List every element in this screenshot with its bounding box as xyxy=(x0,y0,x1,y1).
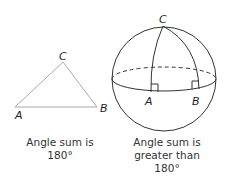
sphere-vertex-a-label: A xyxy=(145,96,153,107)
sphere-caption: Angle sum is greater than 180° xyxy=(114,136,220,175)
flat-vertex-a-label: A xyxy=(15,110,23,121)
sphere-outline xyxy=(112,27,216,131)
meridian-c-b xyxy=(163,26,199,89)
flat-vertex-b-label: B xyxy=(100,103,108,114)
flat-caption-line2: 180° xyxy=(10,149,110,162)
sphere-vertex-c-label: C xyxy=(159,14,167,25)
sphere-caption-line3: 180° xyxy=(114,162,220,175)
flat-triangle xyxy=(15,62,97,107)
flat-caption-line1: Angle sum is xyxy=(10,136,110,149)
flat-caption: Angle sum is 180° xyxy=(10,136,110,162)
sphere-caption-line2: greater than xyxy=(114,149,220,162)
sphere-vertex-b-label: B xyxy=(192,96,200,107)
equator-back xyxy=(112,67,216,79)
meridian-c-a xyxy=(151,26,163,92)
sphere-caption-line1: Angle sum is xyxy=(114,136,220,149)
equator-front xyxy=(112,79,216,91)
flat-vertex-c-label: C xyxy=(59,51,67,62)
